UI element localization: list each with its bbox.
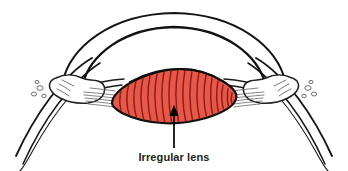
eye-diagram-figure: Irregular lens [0,0,348,171]
eye-cross-section-illustration: Irregular lens [0,0,348,171]
lens-label: Irregular lens [138,151,209,163]
